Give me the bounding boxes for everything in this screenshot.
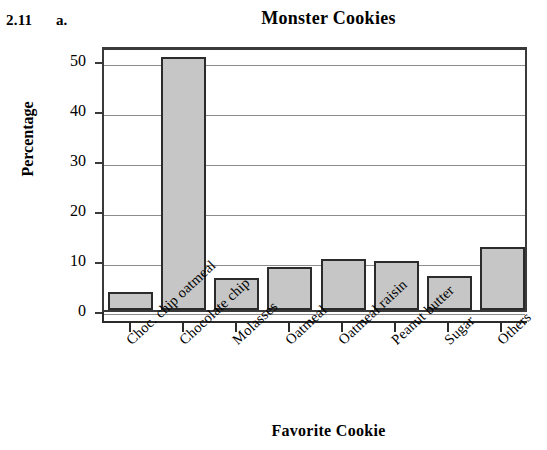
y-axis-tick (95, 262, 102, 264)
y-axis-tick (95, 162, 102, 164)
bar (108, 292, 153, 310)
bar (480, 247, 525, 311)
y-axis-tick-label: 40 (46, 103, 86, 119)
x-axis-left-cap (102, 312, 104, 322)
y-axis-tick (95, 62, 102, 64)
y-axis-tick-label: 10 (46, 253, 86, 269)
exercise-number: 2.11 (6, 12, 32, 29)
y-axis-tick-label: 50 (46, 53, 86, 69)
y-axis-tick (95, 312, 102, 314)
y-axis-tick-label: 30 (46, 153, 86, 169)
y-axis-tick-label: 0 (46, 303, 86, 319)
y-axis-tick (95, 112, 102, 114)
y-axis-tick (95, 212, 102, 214)
bar (321, 259, 366, 311)
y-axis-title: Percentage (19, 79, 37, 199)
y-axis-tick-label: 20 (46, 203, 86, 219)
chart-title: Monster Cookies (130, 8, 527, 29)
exercise-part-letter: a. (56, 12, 67, 29)
plot-area (102, 47, 527, 312)
x-axis-title: Favorite Cookie (130, 422, 527, 440)
x-axis-category-label: Sugar (441, 312, 478, 348)
